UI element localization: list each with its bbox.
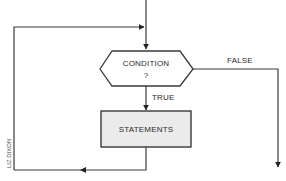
condition-label: CONDITION [123,59,170,68]
while-loop-flowchart: CONDITION ? TRUE STATEMENTS FALSE LIZ DI… [0,0,286,181]
return-arrowhead-icon [80,167,86,173]
condition-hexagon [100,51,193,86]
false-label: FALSE [227,56,253,65]
false-line [193,69,278,167]
credit-label: LIZ DIXON [6,139,12,168]
true-label: TRUE [152,93,175,102]
loop-back-line [14,27,144,170]
statements-label: STATEMENTS [119,125,174,134]
condition-question-mark: ? [144,71,149,80]
statements-return-line [14,147,146,170]
